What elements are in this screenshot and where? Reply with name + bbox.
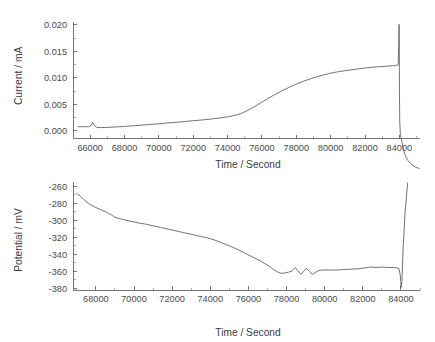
current-y-axis-title: Current / mA (13, 46, 24, 105)
y-tick-label: -380 (49, 284, 67, 294)
x-tick-label: 78000 (274, 294, 300, 304)
x-tick-label: 72000 (180, 143, 206, 153)
current-tick-marks (73, 25, 417, 139)
x-tick-label: 70000 (146, 143, 172, 153)
x-tick-label: 68000 (83, 294, 109, 304)
y-tick-label: 0.000 (44, 126, 67, 136)
x-tick-label: 82000 (350, 294, 376, 304)
x-tick-label: 78000 (284, 143, 310, 153)
potential-vs-time-panel: -380-360-340-320-300-280-260 68000700007… (0, 168, 435, 342)
x-tick-label: 74000 (215, 143, 241, 153)
x-tick-label: 76000 (236, 294, 262, 304)
potential-plot-svg: -380-360-340-320-300-280-260 68000700007… (0, 168, 435, 342)
x-tick-label: 82000 (352, 143, 378, 153)
current-x-tick-labels: 6600068000700007200074000760007800080000… (77, 143, 412, 153)
y-tick-label: 0.010 (44, 73, 67, 83)
y-tick-label: -280 (49, 199, 67, 209)
x-tick-label: 80000 (312, 294, 338, 304)
potential-x-axis-title: Time / Second (215, 327, 281, 338)
potential-y-axis-title: Potential / mV (13, 208, 24, 272)
x-tick-label: 68000 (112, 143, 138, 153)
current-vs-time-panel: 0.0000.0050.0100.0150.020 66000680007000… (0, 0, 435, 172)
y-tick-label: 0.020 (44, 20, 67, 30)
y-tick-label: -360 (49, 267, 67, 277)
y-tick-label: -320 (49, 233, 67, 243)
potential-x-tick-labels: 6800070000720007400076000780008000082000… (83, 294, 414, 304)
y-tick-label: -300 (49, 216, 67, 226)
potential-y-tick-labels: -380-360-340-320-300-280-260 (49, 182, 67, 294)
y-tick-label: -340 (49, 250, 67, 260)
x-tick-label: 80000 (318, 143, 344, 153)
y-tick-label: 0.005 (44, 100, 67, 110)
y-tick-label: 0.015 (44, 47, 67, 57)
y-tick-label: -260 (49, 182, 67, 192)
potential-axes (73, 182, 420, 290)
current-y-tick-labels: 0.0000.0050.0100.0150.020 (44, 20, 67, 136)
x-tick-label: 66000 (77, 143, 103, 153)
potential-tick-marks (73, 186, 420, 290)
figure-container: 0.0000.0050.0100.0150.020 66000680007000… (0, 0, 435, 342)
x-tick-label: 70000 (121, 294, 147, 304)
x-tick-label: 84000 (388, 294, 414, 304)
potential-series-line (77, 183, 408, 288)
x-tick-label: 74000 (197, 294, 223, 304)
current-axes (73, 22, 420, 138)
x-tick-label: 84000 (387, 143, 413, 153)
x-tick-label: 72000 (159, 294, 185, 304)
current-plot-svg: 0.0000.0050.0100.0150.020 66000680007000… (0, 0, 435, 174)
x-tick-label: 76000 (249, 143, 275, 153)
